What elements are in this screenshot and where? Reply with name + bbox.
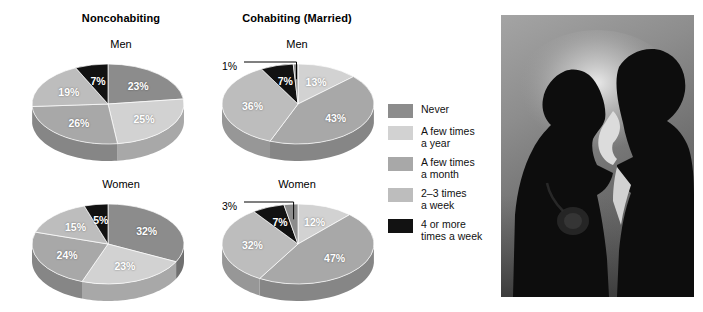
column-title-cohabiting: Cohabiting (Married) bbox=[212, 12, 382, 24]
pie-slice-label: 7% bbox=[91, 75, 106, 87]
pie-chart-noncohabiting-women: 32%23%24%15%5% bbox=[24, 196, 204, 304]
legend: NeverA few times a yearA few times a mon… bbox=[388, 103, 492, 249]
legend-item: A few times a year bbox=[388, 125, 492, 149]
legend-label: 2–3 times a week bbox=[421, 187, 467, 211]
pie-slice-label: 15% bbox=[65, 221, 86, 233]
pie-slice-label: 26% bbox=[68, 117, 89, 129]
row-title-noncohabiting-men: Men bbox=[36, 38, 206, 50]
pie-callout-leader bbox=[214, 56, 394, 164]
callout-leader-line bbox=[244, 202, 294, 219]
pie-chart-noncohabiting-men: 23%25%26%19%7% bbox=[24, 56, 204, 164]
column-title-noncohabiting: Noncohabiting bbox=[36, 12, 206, 24]
pie-top-faces bbox=[32, 64, 184, 144]
photo-svg bbox=[501, 15, 694, 297]
legend-label: 4 or more times a week bbox=[421, 218, 482, 242]
legend-label: A few times a year bbox=[421, 125, 475, 149]
pie-chart-cohabiting-women: 12%47%32%7%3% bbox=[214, 196, 394, 304]
legend-label: Never bbox=[421, 103, 449, 115]
legend-swatch bbox=[388, 188, 413, 202]
pie-slice-label: 23% bbox=[128, 80, 149, 92]
legend-swatch bbox=[388, 126, 413, 140]
legend-swatch bbox=[388, 157, 413, 171]
pie-slice-label: 24% bbox=[57, 249, 78, 261]
pie-callout-leader bbox=[214, 196, 394, 304]
row-title-cohabiting-men: Men bbox=[212, 38, 382, 50]
pie-slice-label: 32% bbox=[136, 225, 157, 237]
legend-swatch bbox=[388, 104, 413, 118]
pie-chart-cohabiting-men: 13%43%36%7%1% bbox=[214, 56, 394, 164]
row-title-noncohabiting-women: Women bbox=[36, 178, 206, 190]
pie-slice-label: 19% bbox=[58, 86, 79, 98]
legend-item: A few times a month bbox=[388, 156, 492, 180]
pie-slice-label: 25% bbox=[133, 113, 154, 125]
legend-item: 4 or more times a week bbox=[388, 218, 492, 242]
pie-slice-label: 23% bbox=[114, 260, 135, 272]
pie-svg bbox=[24, 56, 204, 164]
pie-svg bbox=[24, 196, 204, 304]
legend-swatch bbox=[388, 219, 413, 233]
callout-leader-line bbox=[244, 62, 297, 79]
legend-item: 2–3 times a week bbox=[388, 187, 492, 211]
legend-label: A few times a month bbox=[421, 156, 475, 180]
photo-couple-silhouette bbox=[501, 15, 694, 297]
pie-slice-label: 5% bbox=[93, 214, 108, 226]
legend-item: Never bbox=[388, 103, 492, 118]
figure-root: Noncohabiting Cohabiting (Married) Men M… bbox=[0, 0, 703, 312]
row-title-cohabiting-women: Women bbox=[212, 178, 382, 190]
